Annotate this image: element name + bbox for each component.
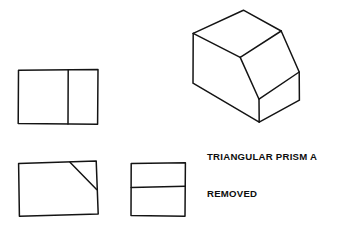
pictorial-right-face-edges <box>259 72 299 122</box>
pictorial-top-back-edges <box>193 10 281 33</box>
top-view-outline <box>18 70 98 125</box>
top-view-group <box>18 70 98 125</box>
note-line-2: REMOVED <box>207 188 355 200</box>
front-view-group <box>19 161 99 216</box>
front-view-diagonal-line <box>70 162 97 189</box>
front-view-outline <box>19 161 99 216</box>
side-view-divider-line <box>131 186 185 187</box>
side-view-outline <box>131 163 185 216</box>
pictorial-top-front-edges <box>193 31 281 57</box>
isometric-pictorial-group <box>193 10 299 122</box>
note-callout: TRIANGULAR PRISM A REMOVED <box>207 126 355 225</box>
side-view-group <box>131 163 185 216</box>
pictorial-slant-face-edges <box>240 31 299 99</box>
note-line-1: TRIANGULAR PRISM A <box>207 151 355 163</box>
drawing-sheet: TRIANGULAR PRISM A REMOVED <box>0 0 359 235</box>
